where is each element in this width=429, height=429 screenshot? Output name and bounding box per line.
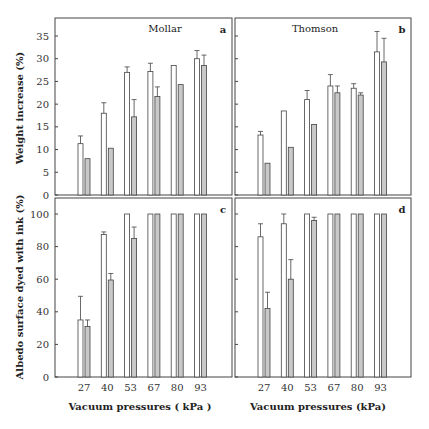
white-bar xyxy=(125,72,130,195)
x-tick-label: 40 xyxy=(281,382,294,393)
y-axis-label-bottom: Albedo surface dyed with ink (%) xyxy=(14,195,25,381)
white-bar xyxy=(258,237,263,377)
y-tick-label: 20 xyxy=(36,339,49,350)
panel-letter: b xyxy=(399,24,406,35)
white-bar xyxy=(328,86,333,195)
gray-bar xyxy=(202,66,207,195)
y-tick-label: 0 xyxy=(43,372,49,383)
x-tick-label: 67 xyxy=(328,382,341,393)
y-tick-label: 25 xyxy=(36,76,49,87)
gray-bar xyxy=(335,214,340,377)
panel-letter: a xyxy=(220,24,227,35)
white-bar xyxy=(78,144,83,195)
gray-bar xyxy=(312,221,317,377)
x-tick-label: 80 xyxy=(351,382,364,393)
gray-bar xyxy=(312,125,317,195)
x-tick-label: 27 xyxy=(78,382,91,393)
y-tick-label: 15 xyxy=(36,121,49,132)
y-tick-label: 60 xyxy=(36,274,49,285)
x-axis-label-right: Vacuum pressures (kPa) xyxy=(249,401,386,412)
white-bar xyxy=(351,214,356,377)
panel-b: Thomsonb xyxy=(235,18,411,195)
gray-bar xyxy=(265,309,270,377)
x-tick-label: 80 xyxy=(171,382,184,393)
panel-a: 05101520253035Mollara xyxy=(36,18,232,201)
x-tick-label: 53 xyxy=(304,382,317,393)
y-tick-label: 5 xyxy=(43,167,49,178)
gray-bar xyxy=(202,214,207,377)
white-bar xyxy=(78,320,83,377)
white-bar xyxy=(305,214,310,377)
x-tick-label: 67 xyxy=(148,382,161,393)
gray-bar xyxy=(132,238,137,377)
gray-bar xyxy=(178,214,183,377)
gray-bar xyxy=(85,159,90,195)
white-bar xyxy=(281,224,286,377)
gray-bar xyxy=(358,214,363,377)
white-bar xyxy=(148,71,153,195)
x-tick-label: 40 xyxy=(101,382,114,393)
white-bar xyxy=(375,52,380,195)
white-bar xyxy=(148,214,153,377)
white-bar xyxy=(328,214,333,377)
y-tick-label: 10 xyxy=(36,144,49,155)
y-tick-label: 30 xyxy=(36,53,49,64)
x-axis-label-left: Vacuum pressures ( kPa ) xyxy=(68,401,212,412)
x-tick-label: 27 xyxy=(258,382,271,393)
gray-bar xyxy=(335,93,340,195)
gray-bar xyxy=(132,117,137,195)
gray-bar xyxy=(85,326,90,377)
panel-d: 274053678093d xyxy=(235,198,411,393)
x-tick-label: 53 xyxy=(124,382,137,393)
gray-bar xyxy=(178,85,183,195)
panel-title: Thomson xyxy=(292,23,339,34)
white-bar xyxy=(171,214,176,377)
gray-bar xyxy=(358,95,363,195)
white-bar xyxy=(125,214,130,377)
y-tick-label: 40 xyxy=(36,306,49,317)
figure: 05101520253035MollaraThomsonb02040608010… xyxy=(0,0,429,429)
y-tick-label: 0 xyxy=(43,190,49,201)
y-tick-label: 20 xyxy=(36,99,49,110)
panel-letter: d xyxy=(399,204,406,215)
gray-bar xyxy=(382,214,387,377)
x-tick-label: 93 xyxy=(194,382,207,393)
panel-letter: c xyxy=(220,204,226,215)
white-bar xyxy=(351,88,356,195)
panel-title: Mollar xyxy=(148,23,182,34)
white-bar xyxy=(195,59,200,195)
white-bar xyxy=(101,234,106,377)
panel-c: 020406080100274053678093c xyxy=(30,198,232,393)
y-tick-label: 100 xyxy=(30,209,49,220)
gray-bar xyxy=(265,163,270,195)
gray-bar xyxy=(108,148,113,195)
white-bar xyxy=(281,111,286,195)
y-tick-label: 35 xyxy=(36,31,49,42)
gray-bar xyxy=(288,279,293,377)
white-bar xyxy=(258,135,263,195)
gray-bar xyxy=(382,62,387,195)
y-tick-label: 80 xyxy=(36,241,49,252)
white-bar xyxy=(375,214,380,377)
y-axis-label-top: Weight increase (%) xyxy=(14,52,25,166)
white-bar xyxy=(171,66,176,195)
x-tick-label: 93 xyxy=(374,382,387,393)
white-bar xyxy=(195,214,200,377)
white-bar xyxy=(101,113,106,195)
gray-bar xyxy=(288,147,293,195)
gray-bar xyxy=(155,96,160,195)
gray-bar xyxy=(108,280,113,377)
gray-bar xyxy=(155,214,160,377)
white-bar xyxy=(305,100,310,195)
